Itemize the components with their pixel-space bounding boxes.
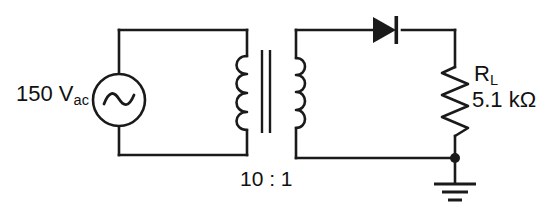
transformer-secondary-coil xyxy=(296,58,305,128)
resistor-zigzag xyxy=(442,67,468,136)
secondary-loop-wires xyxy=(296,30,455,158)
transformer-primary-coil xyxy=(237,56,248,130)
diode-anode-triangle xyxy=(373,17,396,43)
circuit-diagram: 150 Vac 10 : 1 RL 5.1 kΩ xyxy=(0,0,551,212)
source-voltage-text: 150 V xyxy=(16,81,74,106)
source-voltage-subscript: ac xyxy=(74,92,90,108)
ac-source-symbol xyxy=(93,74,145,126)
load-resistor-designator: R xyxy=(474,61,490,86)
diode-cathode-bar xyxy=(395,16,399,44)
load-resistor-symbol xyxy=(442,67,468,136)
turns-ratio-label: 10 : 1 xyxy=(240,168,293,189)
load-resistor-value-label: 5.1 kΩ xyxy=(472,89,536,111)
load-resistor-subscript: L xyxy=(490,72,498,88)
transformer-symbol xyxy=(237,50,306,133)
ground-symbol xyxy=(434,153,476,200)
source-voltage-label: 150 Vac xyxy=(16,83,89,108)
diode-symbol xyxy=(373,16,398,44)
load-resistor-designator-label: RL xyxy=(474,63,498,88)
